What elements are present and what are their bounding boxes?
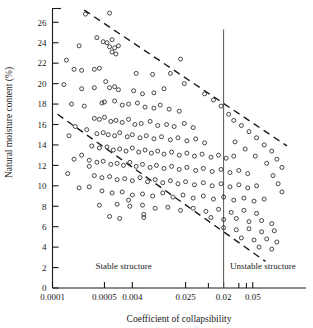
data-point — [194, 137, 198, 141]
data-point — [247, 220, 251, 224]
data-point — [138, 176, 142, 180]
data-point — [128, 160, 132, 164]
data-point — [255, 211, 259, 215]
data-point — [262, 143, 266, 147]
data-point — [170, 164, 174, 168]
data-point — [130, 179, 134, 183]
data-point — [143, 148, 147, 152]
data-point — [156, 149, 160, 153]
data-point — [185, 151, 189, 155]
data-point — [168, 138, 172, 142]
data-point — [120, 190, 124, 194]
data-point — [172, 125, 176, 129]
data-point — [234, 217, 238, 221]
data-point — [100, 176, 104, 180]
plot-frame — [53, 8, 307, 288]
data-point — [232, 118, 236, 122]
data-point — [101, 159, 105, 163]
data-point — [203, 92, 207, 96]
data-point — [132, 89, 136, 93]
data-point — [255, 136, 259, 140]
data-point — [97, 146, 101, 150]
data-point — [134, 71, 138, 75]
data-point — [179, 208, 183, 212]
x-tick-label: 0.05 — [245, 292, 261, 302]
data-point — [179, 57, 183, 61]
data-point — [243, 147, 247, 151]
data-point — [120, 103, 124, 107]
data-point — [280, 190, 284, 194]
data-point — [92, 116, 96, 120]
region-annotation: Unstable structure — [230, 261, 296, 271]
data-point — [67, 134, 71, 138]
data-point — [151, 194, 155, 198]
x-tick-label: 0.004 — [122, 292, 143, 302]
data-point — [272, 229, 276, 233]
y-tick-label: 4 — [42, 242, 47, 252]
data-points — [62, 11, 284, 251]
data-point — [127, 117, 131, 121]
y-tick-label: 22 — [38, 58, 47, 68]
data-point — [104, 80, 108, 84]
data-point — [140, 203, 144, 207]
data-point — [191, 206, 195, 210]
data-point — [101, 40, 105, 44]
data-point — [192, 154, 196, 158]
data-point — [92, 67, 96, 71]
data-point — [128, 204, 132, 208]
data-point — [232, 198, 236, 202]
x-tick-label: 0.02 — [216, 292, 232, 302]
data-point — [95, 160, 99, 164]
data-point — [113, 85, 117, 89]
data-point — [156, 124, 160, 128]
data-point — [105, 41, 109, 45]
data-point — [209, 155, 213, 159]
data-point — [219, 167, 223, 171]
data-point — [246, 172, 250, 176]
data-point — [82, 104, 86, 108]
data-point — [162, 152, 166, 156]
data-point — [118, 147, 122, 151]
data-point — [170, 150, 174, 154]
data-point — [83, 12, 87, 16]
data-point — [116, 44, 120, 48]
data-point — [253, 154, 257, 158]
data-point — [140, 162, 144, 166]
data-point — [113, 134, 117, 138]
data-point — [148, 119, 152, 123]
x-tick-label: 0.0005 — [92, 292, 117, 302]
data-point — [219, 182, 223, 186]
data-point — [90, 144, 94, 148]
data-point — [106, 133, 110, 137]
data-point — [133, 123, 137, 127]
region-annotation: Stable structure — [96, 261, 152, 271]
data-point — [124, 149, 128, 153]
data-point — [148, 165, 152, 169]
trend-line-lower-bound — [58, 114, 266, 261]
data-point — [162, 87, 166, 91]
data-point — [265, 161, 269, 165]
data-point — [118, 217, 122, 221]
data-point — [153, 178, 157, 182]
data-point — [270, 149, 274, 153]
data-point — [191, 126, 195, 130]
data-point — [228, 171, 232, 175]
data-point — [143, 105, 147, 109]
data-point — [211, 197, 215, 201]
data-point — [97, 66, 101, 70]
data-point — [182, 82, 186, 86]
chart-svg: Natural moisture content (%) 02468101214… — [0, 0, 313, 328]
data-point — [149, 151, 153, 155]
data-point — [113, 46, 117, 50]
data-point — [85, 128, 89, 132]
data-point — [255, 184, 259, 188]
data-point — [252, 238, 256, 242]
data-point — [182, 121, 186, 125]
data-point — [77, 44, 81, 48]
y-tick-label: 6 — [42, 222, 47, 232]
data-point — [191, 196, 195, 200]
data-point — [185, 139, 189, 143]
data-point — [232, 154, 236, 158]
data-point — [210, 170, 214, 174]
data-point — [102, 100, 106, 104]
